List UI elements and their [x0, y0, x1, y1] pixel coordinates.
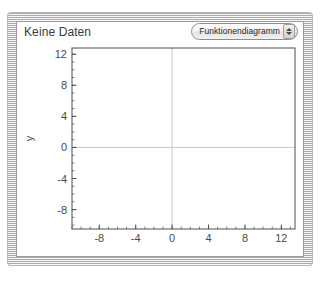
y-axis-label: y — [23, 135, 35, 141]
y-tick-label: -4 — [57, 173, 67, 185]
y-tick-label: 4 — [61, 110, 67, 122]
x-axis-label: x — [181, 247, 187, 251]
triangle-down-icon — [286, 32, 292, 35]
page-title: Keine Daten — [24, 25, 91, 39]
x-tick-label: 0 — [169, 232, 175, 244]
x-tick-label: -4 — [131, 232, 141, 244]
plot-region: -8-40481212840-4-8xy — [17, 43, 303, 256]
x-tick-label: 12 — [275, 232, 287, 244]
x-tick-label: 4 — [205, 232, 211, 244]
chart-type-stepper[interactable] — [283, 24, 295, 39]
plot-window: Keine Daten Funktionendiagramm -8-404812… — [8, 13, 312, 265]
x-tick-label: 8 — [242, 232, 248, 244]
y-tick-label: -8 — [57, 204, 67, 216]
y-tick-label: 12 — [55, 48, 67, 60]
x-tick-label: -8 — [94, 232, 104, 244]
plot-panel: Keine Daten Funktionendiagramm -8-404812… — [16, 21, 304, 257]
y-tick-label: 8 — [61, 79, 67, 91]
chart-type-selected-label: Funktionendiagramm — [199, 24, 280, 39]
panel-header: Keine Daten Funktionendiagramm — [17, 22, 303, 43]
triangle-up-icon — [286, 28, 292, 31]
function-plot[interactable]: -8-40481212840-4-8xy — [17, 43, 303, 251]
y-tick-label: 0 — [61, 141, 67, 153]
chart-type-select[interactable]: Funktionendiagramm — [191, 23, 298, 40]
